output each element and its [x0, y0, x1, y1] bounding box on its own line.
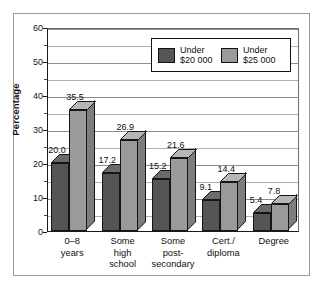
- bar-front-face: [202, 200, 220, 231]
- figure-container: 0102030405060 Percentage 20.017.215.29.1…: [0, 0, 325, 291]
- bar-front-face: [271, 204, 289, 231]
- y-axis-tick-label: 0: [9, 228, 43, 237]
- legend-entry-0: Under$20 000: [158, 45, 221, 66]
- y-axis-tick-major: [43, 130, 47, 131]
- bar-value-label: 9.1: [199, 182, 212, 192]
- bar-front-face: [253, 213, 271, 231]
- bar-front-face: [170, 158, 188, 231]
- legend-label-line: Under: [243, 45, 276, 56]
- bar: [253, 213, 271, 231]
- bar-front-face: [152, 179, 170, 231]
- y-axis-tick-label: 10: [9, 194, 43, 203]
- y-axis-tick-minor: [44, 147, 47, 148]
- x-axis-category-label-line: secondary: [142, 259, 204, 271]
- legend-label-series-1: Under$25 000: [243, 45, 276, 66]
- bar: [51, 163, 69, 231]
- bar-value-label: 7.8: [268, 186, 281, 196]
- bar-front-face: [69, 110, 87, 231]
- legend-label-series-0: Under$20 000: [180, 45, 213, 66]
- y-axis-tick-major: [43, 198, 47, 199]
- y-axis-tick-major: [43, 62, 47, 63]
- y-axis-tick-major: [43, 96, 47, 97]
- legend-swatch-series-1: [221, 48, 238, 63]
- bar: [220, 182, 238, 231]
- bar: [202, 200, 220, 231]
- chart-legend: Under$20 000 Under$25 000: [151, 38, 291, 72]
- x-axis-category-label: Degree: [243, 236, 305, 248]
- y-axis-tick-major: [43, 164, 47, 165]
- bar: [271, 204, 289, 231]
- bar: [170, 158, 188, 231]
- bar: [152, 179, 170, 231]
- y-axis-tick-minor: [44, 79, 47, 80]
- bar-front-face: [120, 140, 138, 231]
- bar-front-face: [220, 182, 238, 231]
- bar-side-face: [137, 130, 147, 231]
- y-axis-tick-major: [43, 28, 47, 29]
- y-axis-title: Percentage: [10, 65, 21, 155]
- legend-swatch-series-0: [158, 48, 175, 63]
- bar-value-label: 26.9: [117, 122, 135, 132]
- y-axis-tick-label: 20: [9, 160, 43, 169]
- x-axis-category-label-line: diploma: [192, 248, 254, 260]
- bar: [120, 140, 138, 231]
- legend-label-line: Under: [180, 45, 213, 56]
- bar-value-label: 14.4: [217, 164, 235, 174]
- gridline-major: [48, 97, 298, 98]
- bar-value-label: 17.2: [99, 155, 117, 165]
- bar-value-label: 15.2: [149, 161, 167, 171]
- bar-value-label: 20.0: [48, 145, 66, 155]
- bar-value-label: 5.4: [250, 195, 263, 205]
- legend-label-line: $20 000: [180, 55, 213, 66]
- gridline-major: [48, 29, 298, 30]
- bar-value-label: 35.5: [66, 92, 84, 102]
- y-axis-tick-label: 60: [9, 24, 43, 33]
- bar-front-face: [51, 163, 69, 231]
- bar: [102, 173, 120, 231]
- x-axis-category-label-line: Degree: [243, 236, 305, 248]
- y-axis-tick-minor: [44, 113, 47, 114]
- bar: [69, 110, 87, 231]
- y-axis-tick-minor: [44, 45, 47, 46]
- y-axis-tick-major: [43, 232, 47, 233]
- y-axis-tick-minor: [44, 181, 47, 182]
- bar-side-face: [187, 148, 197, 231]
- bar-side-face: [86, 100, 96, 231]
- legend-entry-1: Under$25 000: [221, 45, 284, 66]
- gridline-minor: [48, 80, 298, 81]
- bar-value-label: 21.6: [167, 140, 185, 150]
- bar-front-face: [102, 173, 120, 231]
- legend-label-line: $25 000: [243, 55, 276, 66]
- y-axis-tick-minor: [44, 215, 47, 216]
